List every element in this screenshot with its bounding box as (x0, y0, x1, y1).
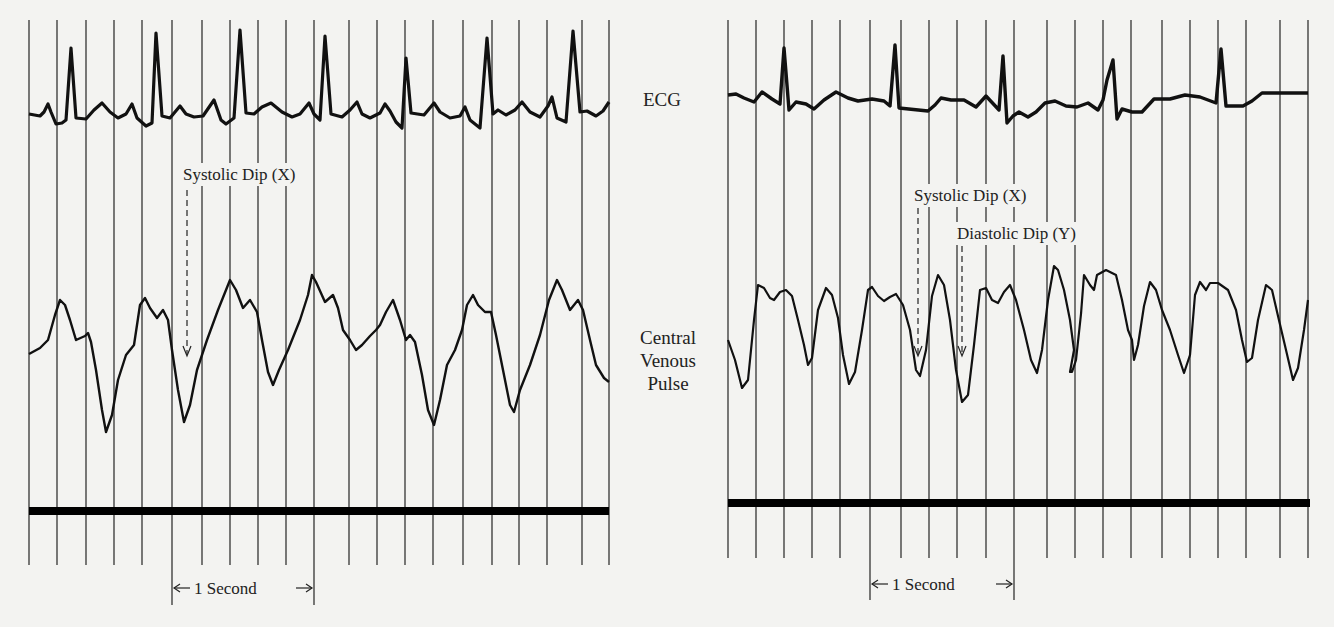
left-time-scale-label: 1 Second (194, 577, 257, 600)
left-grid (29, 20, 609, 605)
left-systolic-dip-label: Systolic Dip (X) (181, 163, 297, 186)
right-diastolic-dip-arrow (958, 246, 966, 356)
cvp-label: Central Venous Pulse (618, 326, 718, 395)
right-time-scale-label: 1 Second (892, 573, 955, 596)
left-ecg-trace (29, 30, 609, 128)
right-cvp-trace (728, 266, 1308, 402)
right-ecg-trace (728, 45, 1308, 123)
ecg-label: ECG (643, 88, 681, 111)
cvp-label-line1: Central (618, 326, 718, 349)
left-cvp-trace (29, 275, 609, 432)
cvp-label-line3: Pulse (618, 372, 718, 395)
left-systolic-dip-arrow (183, 190, 191, 356)
right-diastolic-dip-label: Diastolic Dip (Y) (955, 222, 1078, 245)
right-systolic-dip-label: Systolic Dip (X) (912, 184, 1028, 207)
right-systolic-dip-arrow (914, 208, 922, 356)
cvp-label-line2: Venous (618, 349, 718, 372)
